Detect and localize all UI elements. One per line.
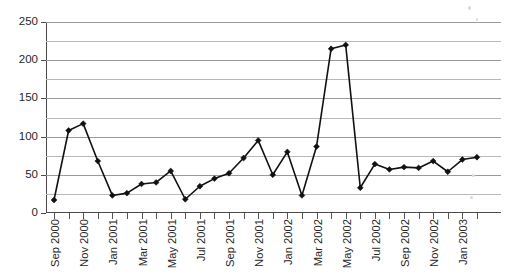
plot-area: Sep 2000Nov 2000Jan 2001Mar 2001May 2001…	[46, 22, 501, 213]
series-line	[54, 45, 477, 200]
x-axis-tick-label: Nov 2002	[429, 219, 440, 280]
x-axis-tick	[389, 213, 390, 219]
x-axis-tick	[214, 213, 215, 219]
data-series	[46, 22, 501, 213]
data-point	[343, 42, 349, 48]
x-axis-tick-label: Nov 2001	[254, 219, 265, 280]
y-axis-tick	[41, 213, 46, 214]
x-axis-tick	[331, 213, 332, 219]
y-axis-tick-label: 200	[0, 54, 38, 66]
scan-speckle	[472, 174, 475, 177]
scan-speckle	[470, 196, 473, 199]
x-axis-tick	[98, 213, 99, 219]
data-point	[401, 164, 407, 170]
y-axis-tick-label: 250	[0, 16, 38, 28]
x-axis-tick	[244, 213, 245, 219]
x-axis-tick-label: Jan 2001	[108, 219, 119, 280]
data-point	[328, 46, 334, 52]
x-axis-tick	[156, 213, 157, 219]
y-axis-tick-label: 0	[0, 207, 38, 219]
x-axis-tick	[477, 213, 478, 219]
x-axis-tick	[448, 213, 449, 219]
data-point	[109, 193, 115, 199]
x-axis-tick	[127, 213, 128, 219]
x-axis-tick-label: Jul 2001	[196, 219, 207, 280]
x-axis-tick	[273, 213, 274, 219]
x-axis-tick-label: Mar 2002	[313, 219, 324, 280]
y-axis-tick-label: 150	[0, 92, 38, 104]
x-axis-tick	[185, 213, 186, 219]
data-point	[299, 193, 305, 199]
x-axis-tick-label: Jul 2002	[371, 219, 382, 280]
data-point	[387, 167, 393, 173]
x-axis-tick-label: Mar 2001	[138, 219, 149, 280]
x-axis-tick-label: May 2001	[167, 219, 178, 280]
x-axis-tick-label: Sep 2001	[225, 219, 236, 280]
data-point	[80, 121, 86, 127]
data-point	[95, 158, 101, 164]
x-axis-tick	[69, 213, 70, 219]
line-chart: 050100150200250 Sep 2000Nov 2000Jan 2001…	[0, 0, 510, 280]
data-point	[474, 154, 480, 160]
x-axis-tick-label: May 2002	[342, 219, 353, 280]
data-point	[66, 128, 72, 134]
y-axis-tick-label: 100	[0, 131, 38, 143]
x-axis-tick	[419, 213, 420, 219]
x-axis-tick-label: Sep 2002	[400, 219, 411, 280]
series-markers	[51, 42, 480, 203]
y-axis-tick-label: 50	[0, 169, 38, 181]
data-point	[416, 165, 422, 171]
data-point	[212, 176, 218, 182]
x-axis-tick-label: Nov 2000	[79, 219, 90, 280]
x-axis-tick	[360, 213, 361, 219]
scan-speckle	[468, 6, 471, 10]
x-axis-tick-label: Jan 2002	[283, 219, 294, 280]
x-axis-tick-label: Jan 2003	[458, 219, 469, 280]
data-point	[51, 197, 57, 203]
scan-speckle	[476, 18, 478, 21]
x-axis-tick-label: Sep 2000	[50, 219, 61, 280]
x-axis-tick	[302, 213, 303, 219]
data-point	[314, 144, 320, 150]
